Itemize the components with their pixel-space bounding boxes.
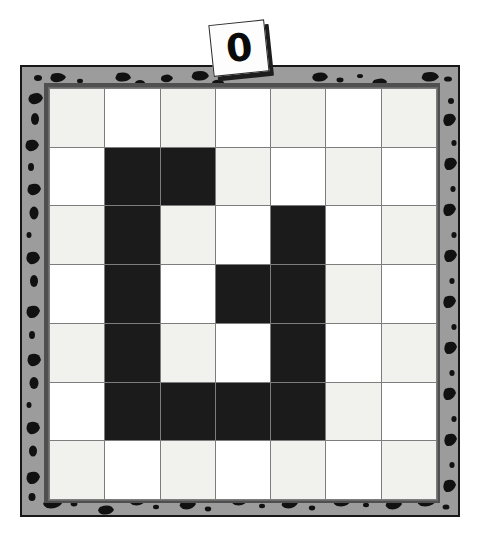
grid-cell[interactable] (216, 89, 270, 147)
grid-cell[interactable] (161, 206, 215, 264)
grid-cell[interactable] (271, 206, 325, 264)
grid-cell[interactable] (216, 441, 270, 499)
grid-cell[interactable] (216, 265, 270, 323)
grid-cell[interactable] (50, 89, 104, 147)
grid-cell[interactable] (50, 441, 104, 499)
grid-cell[interactable] (161, 441, 215, 499)
grid-cell[interactable] (382, 148, 436, 206)
grid-cell[interactable] (271, 441, 325, 499)
grid-cell[interactable] (326, 148, 380, 206)
grid-cell[interactable] (271, 148, 325, 206)
grid-cell[interactable] (50, 148, 104, 206)
grid-cell[interactable] (326, 441, 380, 499)
grid-cell[interactable] (271, 265, 325, 323)
nonogram-board (20, 65, 460, 517)
grid-cell[interactable] (382, 441, 436, 499)
grid-cell[interactable] (382, 324, 436, 382)
grid-cell[interactable] (105, 383, 159, 441)
grid-cell[interactable] (105, 441, 159, 499)
grid-cell[interactable] (161, 89, 215, 147)
grid-cell[interactable] (161, 148, 215, 206)
grid-cell[interactable] (271, 324, 325, 382)
grid-cell[interactable] (161, 324, 215, 382)
grid-cell[interactable] (105, 265, 159, 323)
grid-cell[interactable] (382, 206, 436, 264)
grid-cell[interactable] (271, 89, 325, 147)
card-face: 0 (208, 19, 269, 77)
grid-cell[interactable] (382, 265, 436, 323)
grid-cell[interactable] (271, 383, 325, 441)
grid-cell[interactable] (161, 265, 215, 323)
grid-cell[interactable] (50, 206, 104, 264)
puzzle-index-card: 0 (208, 19, 271, 79)
grid-cell[interactable] (105, 324, 159, 382)
grid-cell[interactable] (382, 383, 436, 441)
grid-cell[interactable] (216, 206, 270, 264)
grid-cell[interactable] (326, 265, 380, 323)
grid-cell[interactable] (326, 383, 380, 441)
card-number-label: 0 (224, 28, 253, 68)
grid-cell[interactable] (50, 383, 104, 441)
grid-cell[interactable] (216, 383, 270, 441)
grid-cell[interactable] (326, 206, 380, 264)
grid-cell[interactable] (326, 324, 380, 382)
grid-cell[interactable] (216, 148, 270, 206)
grid-cell[interactable] (161, 383, 215, 441)
grid-cell[interactable] (105, 89, 159, 147)
grid-cell[interactable] (326, 89, 380, 147)
grid-cell[interactable] (216, 324, 270, 382)
nonogram-grid[interactable] (48, 87, 438, 501)
grid-cell[interactable] (50, 324, 104, 382)
grid-cell[interactable] (105, 148, 159, 206)
grid-cell[interactable] (50, 265, 104, 323)
grid-cell[interactable] (105, 206, 159, 264)
grid-cell[interactable] (382, 89, 436, 147)
